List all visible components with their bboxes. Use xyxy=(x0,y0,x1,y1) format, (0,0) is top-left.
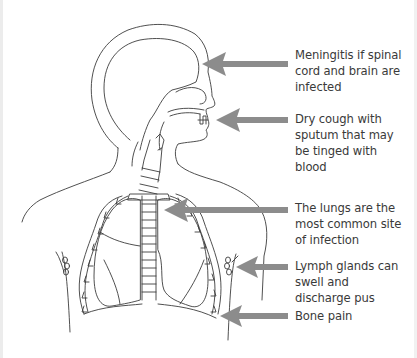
shoulders-left xyxy=(22,172,110,222)
left-arm xyxy=(56,252,70,332)
left-ribs xyxy=(79,196,128,314)
label-line: Lymph glands can xyxy=(295,258,413,274)
label-line: swell and xyxy=(295,274,413,290)
label-line: sputum that may xyxy=(295,127,413,143)
arrow-lymph xyxy=(236,256,288,278)
arrow-bone xyxy=(220,305,288,327)
diaphragm xyxy=(84,304,216,318)
label-line: Dry cough with xyxy=(295,111,413,127)
label-line: cord and brain are xyxy=(295,63,413,79)
label-line: discharge pus xyxy=(295,290,413,306)
nasal-cavity xyxy=(176,88,206,105)
palate xyxy=(168,108,204,116)
neck-left xyxy=(110,148,118,172)
right-lung-fissure xyxy=(180,260,204,304)
label-line: blood xyxy=(295,159,413,175)
brain-outline xyxy=(104,39,199,151)
arrows xyxy=(164,52,288,327)
head-outline xyxy=(91,24,215,164)
label-lymph: Lymph glands can swell and discharge pus xyxy=(295,258,413,306)
pharynx xyxy=(132,122,164,166)
lymph-glands-right xyxy=(225,256,239,275)
label-line: most common site xyxy=(295,216,413,232)
arrow-meningitis xyxy=(202,52,288,76)
left-lung-fissure xyxy=(100,232,140,304)
label-line: of infection xyxy=(295,232,413,248)
label-line: infected xyxy=(295,79,413,95)
label-line: be tinged with xyxy=(295,143,413,159)
arrow-cough xyxy=(216,108,288,132)
label-line: Bone pain xyxy=(295,308,413,324)
label-line: Meningitis if spinal xyxy=(295,47,413,63)
label-bone: Bone pain xyxy=(295,308,413,324)
label-cough: Dry cough with sputum that may be tinged… xyxy=(295,111,413,175)
label-meningitis: Meningitis if spinal cord and brain are … xyxy=(295,47,413,95)
trachea xyxy=(128,140,170,300)
arrow-lungs xyxy=(164,198,288,222)
label-line: The lungs are the xyxy=(295,200,413,216)
teeth xyxy=(198,114,208,124)
shoulders-right xyxy=(178,164,267,300)
label-lungs: The lungs are the most common site of in… xyxy=(295,200,413,248)
